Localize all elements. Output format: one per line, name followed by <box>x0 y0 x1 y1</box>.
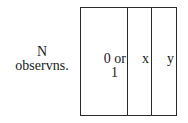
column-divider-1 <box>127 8 128 115</box>
data-matrix-box: 0 or 1 x y <box>80 7 177 116</box>
column-y: y <box>159 52 174 66</box>
column-binary-line2: 1 <box>93 66 126 80</box>
row-label-n: N <box>4 45 80 59</box>
column-binary-indicator: 0 or 1 <box>93 52 126 80</box>
row-count-label: N observns. <box>4 45 80 73</box>
column-binary-line1: 0 or <box>93 52 126 66</box>
column-divider-2 <box>151 8 152 115</box>
row-label-observations: observns. <box>4 59 80 73</box>
column-x: x <box>133 52 149 66</box>
